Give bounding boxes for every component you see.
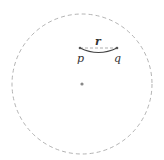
center-point: [80, 82, 83, 85]
label-r: r: [95, 35, 102, 48]
diagram-canvas: r p q: [0, 0, 164, 160]
point-q: [116, 47, 119, 50]
label-q: q: [114, 52, 121, 65]
arc-p-q: [80, 48, 117, 53]
label-p: p: [77, 52, 84, 65]
point-p: [79, 47, 82, 50]
